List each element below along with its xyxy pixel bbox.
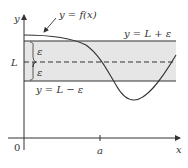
limit-label: L (10, 57, 18, 68)
lower-line-label: y = L − ε (35, 84, 83, 95)
x-tick-a-label: a (97, 145, 103, 156)
curve-label: y = f(x) (58, 9, 97, 20)
origin-label: 0 (14, 142, 20, 153)
y-axis-label: y (13, 13, 20, 24)
x-axis-label: x (176, 144, 182, 155)
limit-diagram: y x 0 a y = f(x) y = L + ε y = L − ε L ε… (0, 0, 188, 168)
upper-line-label: y = L + ε (123, 28, 171, 39)
curve-pointer-arrow (44, 18, 56, 32)
epsilon-lower-label: ε (37, 67, 42, 78)
epsilon-band (24, 41, 176, 81)
epsilon-upper-label: ε (37, 46, 42, 57)
